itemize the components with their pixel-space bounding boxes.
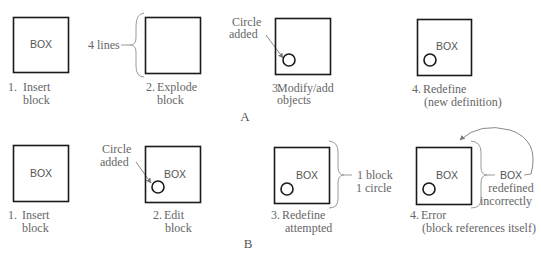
step-caption-2: (new definition) [424,95,502,109]
step-caption: Explode [157,80,197,94]
box-label: BOX [30,167,52,179]
added-circle [152,181,164,193]
annotation-redefined: redefined [488,181,533,195]
box-label: BOX [436,40,458,52]
block-redefinition-diagram: BOX 1. Insert block 4 lines 2. Explode b… [0,0,541,256]
box-label: BOX [164,168,186,180]
step-number: 1. [8,80,17,94]
annotation-1-circle: 1 circle [356,181,392,195]
arrow [136,162,151,183]
step-b3: BOX 1 block 1 circle 3. Redefine attempt… [271,141,393,235]
panel-a: BOX 1. Insert block 4 lines 2. Explode b… [8,13,502,124]
step-a4: BOX 4. Redefine (new definition) [412,20,502,110]
box-label: BOX [30,38,52,50]
arrow [266,35,283,58]
step-caption: Edit [164,208,185,222]
step-number: 2. [146,80,155,94]
step-b1: BOX 1. Insert block [8,146,69,236]
annotation-box: BOX [500,169,522,181]
step-caption: Redefine [282,208,325,222]
step-number: 4. [410,208,419,222]
panel-label-a: A [240,109,250,124]
step-caption: Insert [22,208,50,222]
circle [423,183,435,195]
step-caption-2: block [157,93,184,107]
panel-b: BOX 1. Insert block Circle added BOX 2. … [8,128,536,251]
step-a1: BOX 1. Insert block [8,18,69,108]
step-caption-2: block [22,221,49,235]
annotation-added: added [229,27,258,41]
step-number: 2. [153,208,162,222]
step-b4: BOX BOX redefined incorrectly 4. Error (… [410,128,536,235]
step-a2: 4 lines 2. Explode block [88,13,201,107]
loop-lead [524,174,531,175]
panel-label-b: B [244,236,253,251]
added-circle [283,54,295,66]
step-number: 3. [271,208,280,222]
step-caption-2: block [23,93,50,107]
circle [281,183,293,195]
circle [424,54,436,66]
step-caption-2: (block references itself) [422,221,536,235]
annotation-1-block: 1 block [357,168,393,182]
annotation-incorrectly: incorrectly [480,194,532,208]
exploded-box [146,18,201,74]
step-caption-2: block [165,221,192,235]
annotation-circle: Circle [102,142,131,156]
annotation-added: added [100,155,129,169]
block-box [276,19,331,75]
step-caption: Redefine [423,82,466,96]
brace [130,13,144,77]
step-a3: Circle added 3. Modify/add objects [229,15,334,107]
step-number: 4. [412,82,421,96]
step-caption-2: objects [277,93,311,107]
step-b2: Circle added BOX 2. Edit block [100,142,201,235]
brace [329,141,344,208]
annotation-4-lines: 4 lines [88,38,120,52]
box-label: BOX [296,169,318,181]
step-number: 1. [8,208,17,222]
step-caption-2: attempted [285,221,332,235]
box-label: BOX [436,169,458,181]
step-caption: Insert [23,80,51,94]
step-caption: Error [421,208,446,222]
